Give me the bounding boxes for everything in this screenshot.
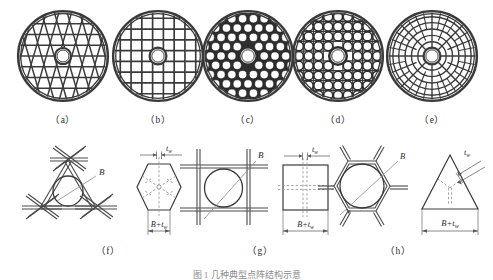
- disc-a-hole-bore: [57, 50, 69, 62]
- unit-cell-g: B tw: [178, 143, 338, 243]
- unit-cell-f: B: [22, 143, 192, 243]
- cell-g-truss: B: [180, 149, 268, 225]
- panel-label-c: （c）: [199, 112, 297, 126]
- panel-label-a: （a）: [14, 112, 112, 126]
- lattice-disc-d: [289, 6, 387, 106]
- cell-f-width-label: B+tw: [151, 220, 168, 230]
- cell-f-width-dimension: B+tw: [148, 210, 170, 235]
- cell-f-tw-label: tw: [166, 144, 172, 154]
- disc-b-hole-bore: [152, 50, 164, 62]
- cell-f-b-label: B: [99, 167, 105, 177]
- disc-a-svg: [14, 6, 112, 106]
- panel-label-e: （e）: [383, 112, 481, 126]
- cell-h-width-label: B+tw: [441, 218, 458, 229]
- cell-f-tw-dimension: tw: [140, 144, 182, 159]
- disc-e-hole-bore: [426, 50, 438, 62]
- unit-cell-h: B tw: [318, 143, 490, 243]
- panel-label-d: （d）: [289, 112, 387, 126]
- disc-c-svg: [199, 6, 297, 106]
- panel-label-g: （g）: [232, 243, 288, 257]
- cell-g-svg: B tw: [178, 143, 338, 243]
- cell-h-tw-label: tw: [464, 148, 470, 158]
- cell-f-truss: B: [22, 146, 117, 219]
- cell-f-inscribed-circle: [53, 176, 83, 206]
- disc-d-hole-bore: [332, 50, 345, 63]
- cell-h-b-label: B: [400, 151, 405, 161]
- disc-c-hole-bore: [242, 50, 255, 63]
- cell-g-width-label: B+tw: [297, 220, 314, 230]
- cell-h-svg: B tw: [318, 143, 490, 243]
- cell-h-tw-dimension: tw: [456, 148, 485, 185]
- cell-h-inscribed-circle: [340, 164, 384, 208]
- lattice-disc-c: [199, 6, 297, 106]
- lattice-disc-a: [14, 6, 112, 106]
- panel-label-h: （h）: [370, 243, 426, 257]
- panel-label-f: （f）: [80, 243, 136, 257]
- disc-e-svg: [383, 6, 481, 106]
- cell-h-envelope: tw B+tw: [422, 148, 485, 235]
- cell-g-inscribed-circle: [205, 169, 243, 207]
- cell-h-triangle-outline: [422, 155, 478, 209]
- lattice-disc-e: [383, 6, 481, 106]
- panel-label-b: （b）: [109, 112, 207, 126]
- figure-caption: 图 1 几种典型点阵结构示意: [0, 270, 493, 280]
- cell-f-envelope: tw B+tw: [137, 144, 182, 235]
- disc-b-svg: [109, 6, 207, 106]
- cell-f-svg: B: [22, 143, 192, 243]
- cell-f-center-node: [157, 185, 161, 189]
- cell-h-width-dimension: B+tw: [422, 209, 478, 235]
- cell-h-truss: B: [318, 146, 408, 227]
- cell-g-b-label: B: [258, 150, 264, 160]
- disc-d-svg: [289, 6, 387, 106]
- lattice-disc-b: [109, 6, 207, 106]
